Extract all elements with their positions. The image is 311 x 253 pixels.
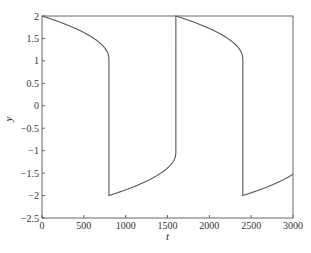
data-series-line bbox=[42, 16, 293, 196]
x-tick-label: 2000 bbox=[199, 220, 219, 231]
x-tick-label: 500 bbox=[76, 220, 91, 231]
plot-frame bbox=[42, 16, 293, 218]
tick-labels: 05001000150020002500300021.510.50−0.5−1−… bbox=[21, 11, 303, 232]
y-tick-label: −2.5 bbox=[21, 213, 39, 224]
x-tick-label: 0 bbox=[40, 220, 45, 231]
x-tick-label: 1000 bbox=[116, 220, 136, 231]
y-tick-label: 2 bbox=[34, 11, 39, 22]
x-axis-label: t bbox=[166, 230, 170, 242]
line-chart: 05001000150020002500300021.510.50−0.5−1−… bbox=[0, 0, 311, 253]
y-tick-label: 0.5 bbox=[27, 78, 40, 89]
y-tick-label: 1 bbox=[34, 55, 39, 66]
y-tick-label: −1.5 bbox=[21, 168, 39, 179]
y-axis-label: y bbox=[2, 116, 14, 122]
y-tick-label: −2 bbox=[28, 190, 39, 201]
y-tick-label: −1 bbox=[28, 145, 39, 156]
y-tick-label: 0 bbox=[34, 100, 39, 111]
y-tick-label: −0.5 bbox=[21, 123, 39, 134]
y-tick-label: 1.5 bbox=[27, 33, 40, 44]
axis-ticks bbox=[42, 16, 293, 218]
x-tick-label: 2500 bbox=[241, 220, 261, 231]
x-tick-label: 3000 bbox=[283, 220, 303, 231]
